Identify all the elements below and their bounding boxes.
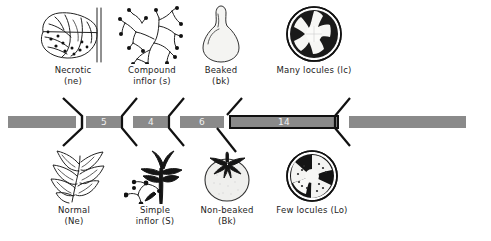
trait-normal-line2: (Ne) [28, 216, 120, 227]
simple-inflorescence-icon [124, 148, 186, 204]
linkage-map-figure: Necrotic (ne) [0, 0, 491, 241]
break-mark-ne [60, 98, 90, 146]
trait-few-locules-line1: Few locules (Lo) [276, 205, 347, 215]
break-mark-s [118, 98, 140, 146]
trait-non-beaked-line1: Non-beaked [200, 205, 253, 215]
trait-normal: Normal (Ne) [28, 148, 120, 227]
few-locules-section-icon [284, 148, 340, 204]
segment-blank-right[interactable] [349, 116, 466, 128]
trait-non-beaked: Non-beaked (Bk) [186, 150, 268, 227]
break-mark-right [330, 98, 354, 146]
trait-simple-inflor-line1: Simple [140, 205, 170, 215]
trait-simple-inflor-line2: inflor (S) [116, 216, 194, 227]
trait-non-beaked-line2: (Bk) [186, 216, 268, 227]
trait-normal-label: Normal (Ne) [28, 205, 120, 227]
trait-few-locules: Few locules (Lo) [262, 148, 362, 216]
trait-few-locules-label: Few locules (Lo) [262, 205, 362, 216]
segment-5[interactable]: 5 [86, 116, 122, 128]
normal-leaf-icon [32, 148, 116, 204]
break-mark-bk [165, 98, 187, 146]
segment-5-label: 5 [86, 116, 122, 128]
segment-14[interactable]: 14 [229, 115, 339, 129]
trait-normal-line1: Normal [58, 205, 90, 215]
segment-14-label: 14 [231, 117, 337, 127]
trait-simple-inflor-label: Simple inflor (S) [116, 205, 194, 227]
non-beaked-fruit-icon [200, 150, 254, 204]
trait-simple-inflor: Simple inflor (S) [116, 148, 194, 227]
trait-non-beaked-label: Non-beaked (Bk) [186, 205, 268, 227]
